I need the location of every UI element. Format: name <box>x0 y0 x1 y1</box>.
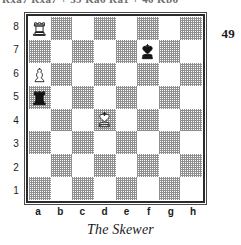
square-f5[interactable] <box>137 86 159 109</box>
rank-label-3: 3 <box>9 133 23 157</box>
file-label-f: f <box>138 205 160 219</box>
square-d7[interactable] <box>94 40 116 63</box>
square-c3[interactable] <box>72 131 94 154</box>
rank-label-1: 1 <box>9 180 23 204</box>
square-a2[interactable] <box>29 154 51 177</box>
square-h3[interactable] <box>180 131 202 154</box>
board-frame-inner <box>26 14 205 203</box>
square-g4[interactable] <box>159 109 181 132</box>
rank-label-5: 5 <box>9 86 23 110</box>
square-f6[interactable] <box>137 63 159 86</box>
square-e2[interactable] <box>116 154 138 177</box>
square-g2[interactable] <box>159 154 181 177</box>
square-h5[interactable] <box>180 86 202 109</box>
square-f2[interactable] <box>137 154 159 177</box>
file-label-b: b <box>49 205 71 219</box>
chessboard <box>29 17 202 200</box>
rank-label-6: 6 <box>9 62 23 86</box>
board-frame <box>24 12 207 205</box>
square-f1[interactable] <box>137 177 159 200</box>
square-e4[interactable] <box>116 109 138 132</box>
square-e7[interactable] <box>116 40 138 63</box>
rank-labels: 87654321 <box>9 15 23 203</box>
file-label-c: c <box>71 205 93 219</box>
square-b8[interactable] <box>51 17 73 40</box>
square-d8[interactable] <box>94 17 116 40</box>
square-c4[interactable] <box>72 109 94 132</box>
file-labels: abcdefgh <box>27 205 204 219</box>
square-h1[interactable] <box>180 177 202 200</box>
square-g1[interactable] <box>159 177 181 200</box>
square-d3[interactable] <box>94 131 116 154</box>
square-a5[interactable] <box>29 86 51 109</box>
square-d5[interactable] <box>94 86 116 109</box>
chess-position-diagram: 87654321 abcdefgh <box>0 0 241 245</box>
square-c1[interactable] <box>72 177 94 200</box>
square-h2[interactable] <box>180 154 202 177</box>
square-f4[interactable] <box>137 109 159 132</box>
file-label-g: g <box>160 205 182 219</box>
square-g7[interactable] <box>159 40 181 63</box>
square-e5[interactable] <box>116 86 138 109</box>
square-g5[interactable] <box>159 86 181 109</box>
square-b6[interactable] <box>51 63 73 86</box>
square-h8[interactable] <box>180 17 202 40</box>
square-e6[interactable] <box>116 63 138 86</box>
rank-label-8: 8 <box>9 15 23 39</box>
square-c2[interactable] <box>72 154 94 177</box>
white-king-icon[interactable] <box>94 109 116 132</box>
square-a1[interactable] <box>29 177 51 200</box>
square-e3[interactable] <box>116 131 138 154</box>
square-g3[interactable] <box>159 131 181 154</box>
square-b1[interactable] <box>51 177 73 200</box>
square-g6[interactable] <box>159 63 181 86</box>
square-b2[interactable] <box>51 154 73 177</box>
file-label-e: e <box>116 205 138 219</box>
square-h4[interactable] <box>180 109 202 132</box>
square-b4[interactable] <box>51 109 73 132</box>
file-label-a: a <box>27 205 49 219</box>
square-d4[interactable] <box>94 109 116 132</box>
square-h7[interactable] <box>180 40 202 63</box>
square-f8[interactable] <box>137 17 159 40</box>
square-e1[interactable] <box>116 177 138 200</box>
rank-label-7: 7 <box>9 39 23 63</box>
square-h6[interactable] <box>180 63 202 86</box>
white-pawn-icon[interactable] <box>29 63 51 86</box>
square-b3[interactable] <box>51 131 73 154</box>
square-a6[interactable] <box>29 63 51 86</box>
square-b5[interactable] <box>51 86 73 109</box>
diagram-caption: The Skewer <box>0 222 241 238</box>
square-b7[interactable] <box>51 40 73 63</box>
square-g8[interactable] <box>159 17 181 40</box>
square-a7[interactable] <box>29 40 51 63</box>
square-a3[interactable] <box>29 131 51 154</box>
square-c5[interactable] <box>72 86 94 109</box>
square-d6[interactable] <box>94 63 116 86</box>
file-label-h: h <box>182 205 204 219</box>
rank-label-2: 2 <box>9 156 23 180</box>
square-c6[interactable] <box>72 63 94 86</box>
file-label-d: d <box>93 205 115 219</box>
square-a8[interactable] <box>29 17 51 40</box>
square-d2[interactable] <box>94 154 116 177</box>
square-d1[interactable] <box>94 177 116 200</box>
square-e8[interactable] <box>116 17 138 40</box>
rank-label-4: 4 <box>9 109 23 133</box>
square-c7[interactable] <box>72 40 94 63</box>
square-c8[interactable] <box>72 17 94 40</box>
white-rook-icon[interactable] <box>29 17 51 40</box>
square-f3[interactable] <box>137 131 159 154</box>
black-king-icon[interactable] <box>137 40 159 63</box>
square-f7[interactable] <box>137 40 159 63</box>
black-rook-icon[interactable] <box>29 86 51 109</box>
square-a4[interactable] <box>29 109 51 132</box>
